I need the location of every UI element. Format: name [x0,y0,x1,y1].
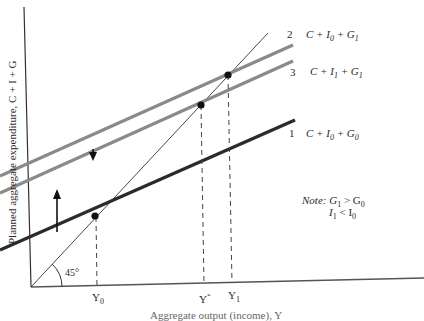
line-3-number: 3 [290,66,296,78]
equilibrium-dot-y1 [224,71,231,78]
line-1-number: 1 [289,127,295,139]
dashed-ystar [201,105,204,284]
line-2-number: 2 [287,28,293,40]
line-1-c-i0-g0 [0,120,295,250]
line-2-c-i0-g1 [0,45,293,176]
line-1-label: C + I0 + G0 [306,127,359,139]
dashed-y0 [96,217,97,286]
up-arrow-icon [53,189,61,199]
dashed-y1 [228,75,232,283]
line-3-c-i1-g1 [0,61,293,193]
line-2-label: C + I0 + G1 [306,28,359,40]
note-box: Note: G1 > G0 I1 < I0 [302,194,365,218]
tick-ystar: Y* [199,290,210,305]
down-arrow-icon [89,152,97,161]
equilibrium-dot-y0 [91,212,98,219]
x-axis-label: Aggregate output (income), Y [150,309,282,321]
angle-label: 45° [65,267,79,279]
equilibrium-dot-ystar [197,101,204,108]
angle-arc [52,264,62,287]
line-3-label: C + I1 + G1 [310,65,363,77]
x-axis [31,278,424,287]
y-axis-label: Planned aggregate expenditure, C + I + G [6,94,18,244]
y-axis [24,7,31,287]
tick-y0: Y0 [92,291,104,303]
tick-y1: Y1 [228,289,240,301]
